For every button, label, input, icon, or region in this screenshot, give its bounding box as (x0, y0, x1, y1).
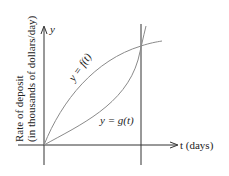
y-axis-label: y (49, 23, 55, 35)
y-label-line1: Rate of deposit (13, 75, 25, 142)
rate-diagram: y t (days) y = g(t) y = f(t) Rate of dep… (0, 0, 229, 176)
curve-f (44, 41, 162, 145)
curve-g-label: y = g(t) (99, 114, 134, 127)
curve-f-label: y = f(t) (65, 50, 94, 84)
y-label-line2: (in thousands of dollars/day) (25, 15, 38, 142)
t-axis-label: t (days) (180, 139, 214, 152)
curve-g (44, 26, 146, 145)
